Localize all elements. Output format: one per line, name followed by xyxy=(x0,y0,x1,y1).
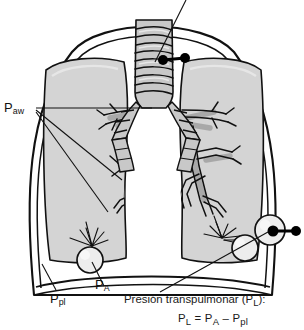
label-paw-subscript: aw xyxy=(13,106,25,116)
label-pa-subscript: A xyxy=(104,283,110,293)
caption-title-tail: ): xyxy=(258,293,265,305)
caption-transpulmonary-pressure: Presión transpulmonar (PL): PL = PA – Pp… xyxy=(124,292,302,330)
formula-p1: P xyxy=(178,312,186,324)
label-pa-symbol: P xyxy=(95,277,104,292)
formula-sub-pl: pl xyxy=(240,317,248,328)
cropped-header-text xyxy=(0,0,304,6)
caption-title-text: Presión transpulmonar (P xyxy=(124,293,253,305)
label-alveolar-pressure: PA xyxy=(95,277,110,293)
formula-minus: – P xyxy=(219,312,240,324)
alveolus-left xyxy=(77,247,103,273)
formula-equals: = P xyxy=(191,312,212,324)
caption-title: Presión transpulmonar (PL): xyxy=(124,293,265,305)
label-paw-symbol: P xyxy=(4,100,13,115)
label-ppl-subscript: pl xyxy=(59,297,66,307)
label-ppl-symbol: P xyxy=(50,291,59,306)
caption-formula: PL = PA – Ppl xyxy=(124,311,302,329)
label-pleural-pressure: Ppl xyxy=(50,291,66,307)
label-airway-pressure: Paw xyxy=(4,100,24,116)
